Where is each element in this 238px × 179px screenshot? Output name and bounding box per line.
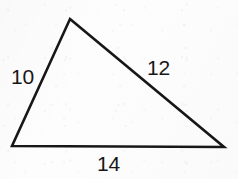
side-label-left: 10 — [11, 66, 34, 87]
triangle-figure: 10 12 14 — [0, 0, 238, 179]
triangle-outline — [12, 19, 224, 147]
side-label-right: 12 — [147, 57, 170, 78]
side-label-bottom: 14 — [97, 153, 120, 174]
